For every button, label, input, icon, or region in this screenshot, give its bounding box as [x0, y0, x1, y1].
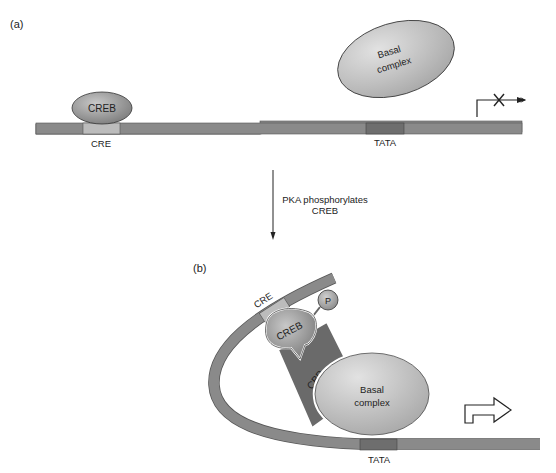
tata-label-a: TATA [374, 137, 397, 148]
tata-box-a [366, 123, 404, 134]
creb-activation-diagram: (a) CRE TATA CREB Basal complex [0, 0, 556, 473]
cre-label-a: CRE [91, 138, 111, 149]
tata-label-b: TATA [368, 454, 391, 465]
panel-b: (b) CRE TATA CBP P CREB Basal complex [193, 262, 540, 465]
panel-a: (a) CRE TATA CREB Basal complex [10, 7, 526, 149]
transition: PKA phosphorylates CREB [271, 170, 369, 240]
cre-element-a [83, 123, 120, 134]
phosphate-label: P [325, 296, 331, 306]
basal-label-b-line1: Basal [360, 384, 384, 395]
creb-label-a: CREB [88, 103, 116, 114]
transition-label-line1: PKA phosphorylates [282, 194, 368, 205]
transition-label-line2: CREB [312, 205, 338, 216]
active-transcription-arrow-icon [465, 398, 511, 423]
panel-b-label: (b) [193, 262, 206, 274]
panel-a-label: (a) [10, 18, 23, 30]
blocked-transcription-arrow-icon [477, 94, 526, 117]
tata-box-b [360, 439, 397, 450]
basal-label-b-line2: complex [354, 397, 390, 408]
